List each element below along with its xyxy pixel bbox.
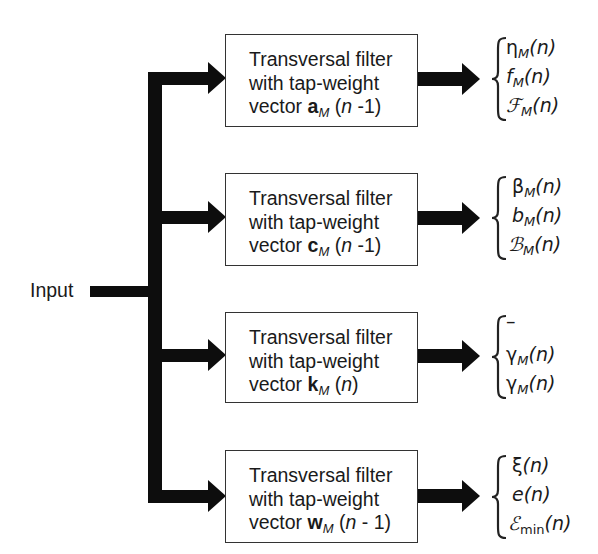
filter-line3: vector cM (n -1) bbox=[249, 234, 392, 264]
output-subscript: M bbox=[523, 243, 534, 258]
output-symbol: γ bbox=[506, 372, 517, 394]
output-item: ξ(n) bbox=[508, 454, 571, 483]
filter-box-c: Transversal filter with tap-weight vecto… bbox=[225, 173, 418, 266]
output-arg: (n) bbox=[524, 65, 551, 87]
output-symbol: ℰ bbox=[508, 512, 520, 534]
output-subscript: M bbox=[524, 185, 535, 200]
arg-rest: - 1) bbox=[356, 511, 391, 533]
output-arrow-shaft-4 bbox=[418, 489, 464, 503]
output-symbol: e bbox=[512, 483, 524, 505]
output-arrowhead-3 bbox=[462, 340, 480, 372]
output-item: – bbox=[506, 310, 555, 339]
branch-arrowhead-4 bbox=[208, 480, 226, 512]
brace-icon bbox=[490, 454, 508, 540]
output-symbol: ℱ bbox=[506, 94, 521, 116]
filter-line1: Transversal filter bbox=[249, 187, 392, 211]
brace-icon bbox=[490, 175, 508, 261]
output-symbol: η bbox=[506, 36, 518, 58]
output-item: ℰmin(n) bbox=[508, 512, 571, 541]
output-arg: (n) bbox=[524, 483, 551, 505]
output-subscript: M bbox=[518, 46, 529, 61]
output-arg: (n) bbox=[532, 94, 559, 116]
arg-rest: ) bbox=[352, 373, 359, 395]
filter-line3: vector aM (n -1) bbox=[249, 95, 392, 125]
branch-arrowhead-2 bbox=[208, 201, 226, 233]
branch-arrow-shaft-2 bbox=[162, 211, 210, 224]
filter-line1: Transversal filter bbox=[249, 326, 392, 350]
output-arg: (n) bbox=[528, 372, 555, 394]
arg-var: n bbox=[345, 511, 356, 533]
output-subscript: M bbox=[524, 214, 535, 229]
filter-line2: with tap-weight bbox=[249, 350, 392, 374]
output-subscript: M bbox=[517, 382, 528, 397]
vector-word: vector bbox=[249, 234, 308, 256]
branch-arrowhead-3 bbox=[208, 339, 226, 371]
output-item: e(n) bbox=[508, 483, 571, 512]
vector-word: vector bbox=[249, 95, 308, 117]
distribution-bus bbox=[148, 72, 162, 503]
output-item: fM(n) bbox=[506, 65, 559, 94]
output-arg: (n) bbox=[528, 343, 555, 365]
filter-box-a: Transversal filter with tap-weight vecto… bbox=[225, 34, 418, 127]
output-symbol: γ bbox=[506, 343, 517, 365]
output-symbol: β bbox=[512, 175, 524, 197]
filter-line3: vector kM (n) bbox=[249, 373, 392, 403]
arg-rest: -1) bbox=[352, 95, 381, 117]
input-label: Input bbox=[30, 279, 73, 302]
vector-symbol: k bbox=[308, 373, 319, 395]
arg-var: n bbox=[341, 373, 352, 395]
filter-line2: with tap-weight bbox=[249, 211, 392, 235]
output-item: βM(n) bbox=[508, 175, 562, 204]
vector-symbol: c bbox=[308, 234, 319, 256]
vector-subscript: M bbox=[323, 521, 334, 536]
output-item: γM(n) bbox=[506, 372, 555, 401]
filter-line3: vector wM (n - 1) bbox=[249, 511, 392, 541]
output-arg: (n) bbox=[534, 233, 561, 255]
output-arrowhead-1 bbox=[462, 63, 480, 95]
arg-var: n bbox=[341, 234, 352, 256]
vector-subscript: M bbox=[318, 105, 329, 120]
output-arrowhead-4 bbox=[462, 480, 480, 512]
output-arrow-shaft-3 bbox=[418, 349, 464, 363]
arg-open: ( bbox=[329, 95, 341, 117]
output-item: ℬM(n) bbox=[508, 233, 562, 262]
output-symbol: ξ bbox=[512, 454, 523, 476]
filter-line1: Transversal filter bbox=[249, 464, 392, 488]
output-symbol: – bbox=[506, 310, 516, 332]
output-subscript: M bbox=[521, 104, 532, 119]
output-subscript: M bbox=[517, 353, 528, 368]
vector-subscript: M bbox=[318, 244, 329, 259]
output-symbol: ℬ bbox=[508, 233, 523, 255]
vector-word: vector bbox=[249, 373, 308, 395]
vector-word: vector bbox=[249, 511, 308, 533]
vector-symbol: a bbox=[308, 95, 319, 117]
output-symbol: b bbox=[512, 204, 524, 226]
output-item: ℱM(n) bbox=[506, 94, 559, 123]
output-arrow-shaft-2 bbox=[418, 211, 464, 225]
branch-arrow-shaft-3 bbox=[162, 349, 210, 362]
output-subscript: M bbox=[513, 75, 524, 90]
branch-arrowhead-1 bbox=[208, 62, 226, 94]
branch-arrow-shaft-4 bbox=[148, 490, 210, 503]
output-arrow-shaft-1 bbox=[418, 72, 464, 86]
filter-line2: with tap-weight bbox=[249, 72, 392, 96]
output-item: γM(n) bbox=[506, 343, 555, 372]
output-arrowhead-2 bbox=[462, 202, 480, 234]
arg-rest: -1) bbox=[352, 234, 381, 256]
output-item: bM(n) bbox=[508, 204, 562, 233]
branch-arrow-shaft-1 bbox=[148, 72, 210, 85]
output-arg: (n) bbox=[523, 454, 550, 476]
output-arg: (n) bbox=[535, 175, 562, 197]
output-arg: (n) bbox=[529, 36, 556, 58]
output-symbol: f bbox=[506, 65, 513, 87]
arg-open: ( bbox=[334, 511, 346, 533]
filter-line2: with tap-weight bbox=[249, 488, 392, 512]
output-item: ηM(n) bbox=[506, 36, 559, 65]
filter-box-k: Transversal filter with tap-weight vecto… bbox=[225, 312, 418, 403]
arg-open: ( bbox=[329, 234, 341, 256]
arg-var: n bbox=[341, 95, 352, 117]
output-subscript: min bbox=[520, 522, 545, 537]
output-arg: (n) bbox=[535, 204, 562, 226]
vector-subscript: M bbox=[318, 383, 329, 398]
filter-box-w: Transversal filter with tap-weight vecto… bbox=[225, 450, 418, 543]
